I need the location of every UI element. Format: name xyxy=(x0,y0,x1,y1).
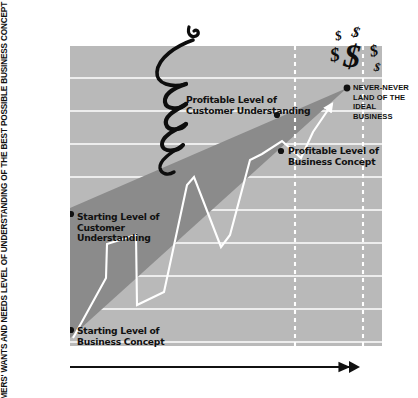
marker-starting-business-concept xyxy=(68,327,74,333)
business-concept-convergence-figure: LEVEL OF UNDERSTANDING OF YOUR CUSTOMERS… xyxy=(0,0,418,398)
marker-starting-customer-understanding xyxy=(68,211,74,217)
marker-profitable-business-concept xyxy=(278,148,284,154)
x-axis-arrow xyxy=(70,361,360,373)
plot-area xyxy=(0,0,418,398)
marker-profitable-customer-understanding xyxy=(274,112,280,118)
marker-never-never-land xyxy=(344,85,351,92)
